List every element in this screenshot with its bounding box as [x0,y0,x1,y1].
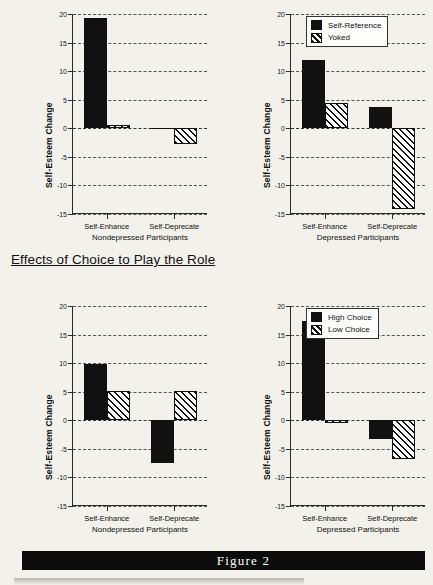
x-axis-group-label: Depressed Participants [291,525,425,534]
gridline [73,14,207,15]
y-axis-tick-label: 5 [63,96,67,103]
y-axis-tick [286,214,291,215]
legend-bottom-right: High Choice Low Choice [306,308,379,339]
y-axis-tick [68,335,73,336]
y-axis-tick [68,214,73,215]
gridline [73,306,207,307]
figure-page: 20151050-5-10-15Self-EnhanceSelf-Depreca… [0,0,433,585]
y-axis-tick-label: -5 [279,153,285,160]
legend-swatch-hatch-icon [311,33,322,43]
x-axis-group-label: Depressed Participants [291,233,425,242]
legend-item: Yoked [311,33,381,43]
legend-item: Self-Reference [311,20,381,30]
y-axis-tick-label: 0 [281,125,285,132]
y-axis-tick-label: 15 [277,39,285,46]
y-axis-tick [286,43,291,44]
bar-high-choice-self-deprecate [151,420,174,463]
y-axis-tick-label: 15 [59,331,67,338]
legend-swatch-solid-icon [311,20,322,30]
x-axis-group-label: Nondepressed Participants [73,233,207,242]
bar-yoked-self-deprecate [392,128,415,209]
gridline [291,477,425,478]
bar-self-reference-self-enhance [302,60,325,129]
y-axis-tick [286,363,291,364]
gridline [73,477,207,478]
y-axis-tick-label: 0 [63,417,67,424]
x-axis-tick [325,214,326,219]
bar-low-choice-self-deprecate [392,420,415,458]
bar-low-choice-self-enhance [107,391,130,421]
y-axis-tick [68,43,73,44]
x-axis-tick [392,214,393,219]
legend-swatch-hatch-icon [311,325,322,335]
y-axis-tick-label: 5 [63,388,67,395]
y-axis-tick [68,506,73,507]
x-axis-tick [174,506,175,511]
legend-label: Yoked [328,33,350,42]
bar-low-choice-self-deprecate [174,391,197,420]
plot-area: 20151050-5-10-15Self-EnhanceSelf-Depreca… [72,14,207,214]
y-axis-tick [286,449,291,450]
x-axis-category-label: Self-Deprecate [149,222,199,231]
chart-panel-bottom-left: 20151050-5-10-15Self-EnhanceSelf-Depreca… [0,292,215,542]
y-axis-tick-label: -15 [57,503,67,510]
y-axis-tick [68,157,73,158]
chart-panel-top-left: 20151050-5-10-15Self-EnhanceSelf-Depreca… [0,0,215,248]
bar-yoked-self-deprecate [174,128,197,144]
chart-panel-bottom-right: 20151050-5-10-15Self-EnhanceSelf-Depreca… [218,292,433,542]
y-axis-tick [286,506,291,507]
y-axis-tick-label: -5 [61,445,67,452]
y-axis-tick [68,100,73,101]
y-axis-tick-label: -10 [57,474,67,481]
y-axis-label: Self-Esteem Change [262,330,272,480]
bar-self-reference-self-deprecate [369,107,392,129]
y-axis-tick [286,306,291,307]
legend-label: Self-Reference [328,21,381,30]
y-axis-tick [286,335,291,336]
x-axis-category-label: Self-Deprecate [367,514,417,523]
y-axis-tick [68,477,73,478]
y-axis-tick-label: -10 [275,182,285,189]
y-axis-tick [68,185,73,186]
y-axis-tick [68,392,73,393]
y-axis-tick-label: -10 [57,182,67,189]
bar-self-reference-self-enhance [84,18,107,128]
y-axis-label: Self-Esteem Change [44,38,54,188]
y-axis-tick-label: 0 [63,125,67,132]
gridline [73,449,207,450]
y-axis-tick-label: -15 [275,503,285,510]
y-axis-tick [68,363,73,364]
x-axis-category-label: Self-Deprecate [367,222,417,231]
bar-high-choice-self-enhance [84,364,107,420]
x-axis-category-label: Self-Enhance [302,514,347,523]
y-axis-tick-label: 20 [59,11,67,18]
y-axis-tick [68,420,73,421]
y-axis-tick-label: 5 [281,388,285,395]
y-axis-tick [286,392,291,393]
gridline [73,214,207,215]
gridline [73,335,207,336]
bar-self-reference-self-deprecate [151,128,174,129]
x-axis-category-label: Self-Deprecate [149,514,199,523]
y-axis-tick-label: 20 [277,11,285,18]
x-axis-tick [392,506,393,511]
y-axis-tick [286,71,291,72]
x-axis-tick [107,214,108,219]
y-axis-tick [286,477,291,478]
y-axis-tick [68,128,73,129]
y-axis-label: Self-Esteem Change [262,38,272,188]
y-axis-tick [286,157,291,158]
section-heading: Effects of Choice to Play the Role [11,252,215,267]
x-axis-group-label: Nondepressed Participants [73,525,207,534]
y-axis-tick [286,185,291,186]
gridline [291,214,425,215]
y-axis-tick [68,306,73,307]
bar-high-choice-self-deprecate [369,420,392,439]
bar-yoked-self-enhance [107,125,130,128]
gridline [291,506,425,507]
gridline [291,14,425,15]
figure-banner-label: Figure 2 [217,553,270,569]
y-axis-tick-label: -15 [275,211,285,218]
y-axis-label: Self-Esteem Change [44,330,54,480]
y-axis-tick-label: -15 [57,211,67,218]
